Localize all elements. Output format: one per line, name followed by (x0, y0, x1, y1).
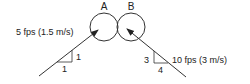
jet-b-rise-label: 3 (144, 55, 149, 65)
jet-diagram: A B 5 fps (1.5 m/s) 1 1 10 fps (3 m/s) 3… (0, 0, 250, 84)
cylinder-a-label: A (101, 1, 108, 12)
jet-a-velocity-label: 5 fps (1.5 m/s) (16, 27, 74, 37)
jet-a-run-label: 1 (62, 64, 67, 74)
cylinder-b-label: B (128, 1, 135, 12)
cylinder-b (117, 13, 145, 41)
jet-b-velocity-label: 10 fps (3 m/s) (172, 55, 227, 65)
cylinder-a (90, 13, 118, 41)
jet-a-rise-label: 1 (76, 52, 81, 62)
jet-b-arrow (127, 29, 186, 77)
jet-b-run-label: 4 (158, 65, 163, 75)
